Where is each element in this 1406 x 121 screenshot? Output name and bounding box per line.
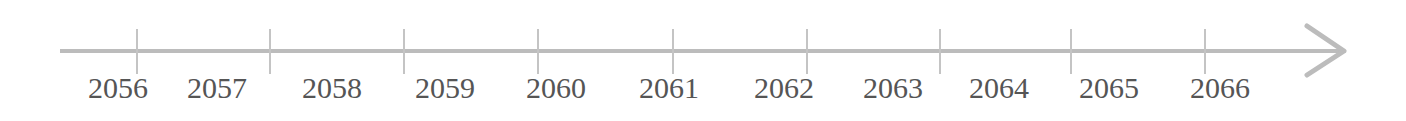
year-label-2060: 2060 bbox=[526, 71, 586, 105]
timeline: 2056 2057 2058 2059 2060 2061 2062 2063 … bbox=[0, 0, 1406, 121]
year-label-2064: 2064 bbox=[969, 71, 1029, 105]
year-label-2063: 2063 bbox=[863, 71, 923, 105]
year-label-2056: 2056 bbox=[88, 71, 148, 105]
year-label-2058: 2058 bbox=[302, 71, 362, 105]
year-label-2057: 2057 bbox=[187, 71, 247, 105]
year-label-2065: 2065 bbox=[1079, 71, 1139, 105]
year-label-2062: 2062 bbox=[754, 71, 814, 105]
year-label-2066: 2066 bbox=[1190, 71, 1250, 105]
year-label-2059: 2059 bbox=[415, 71, 475, 105]
year-label-2061: 2061 bbox=[639, 71, 699, 105]
